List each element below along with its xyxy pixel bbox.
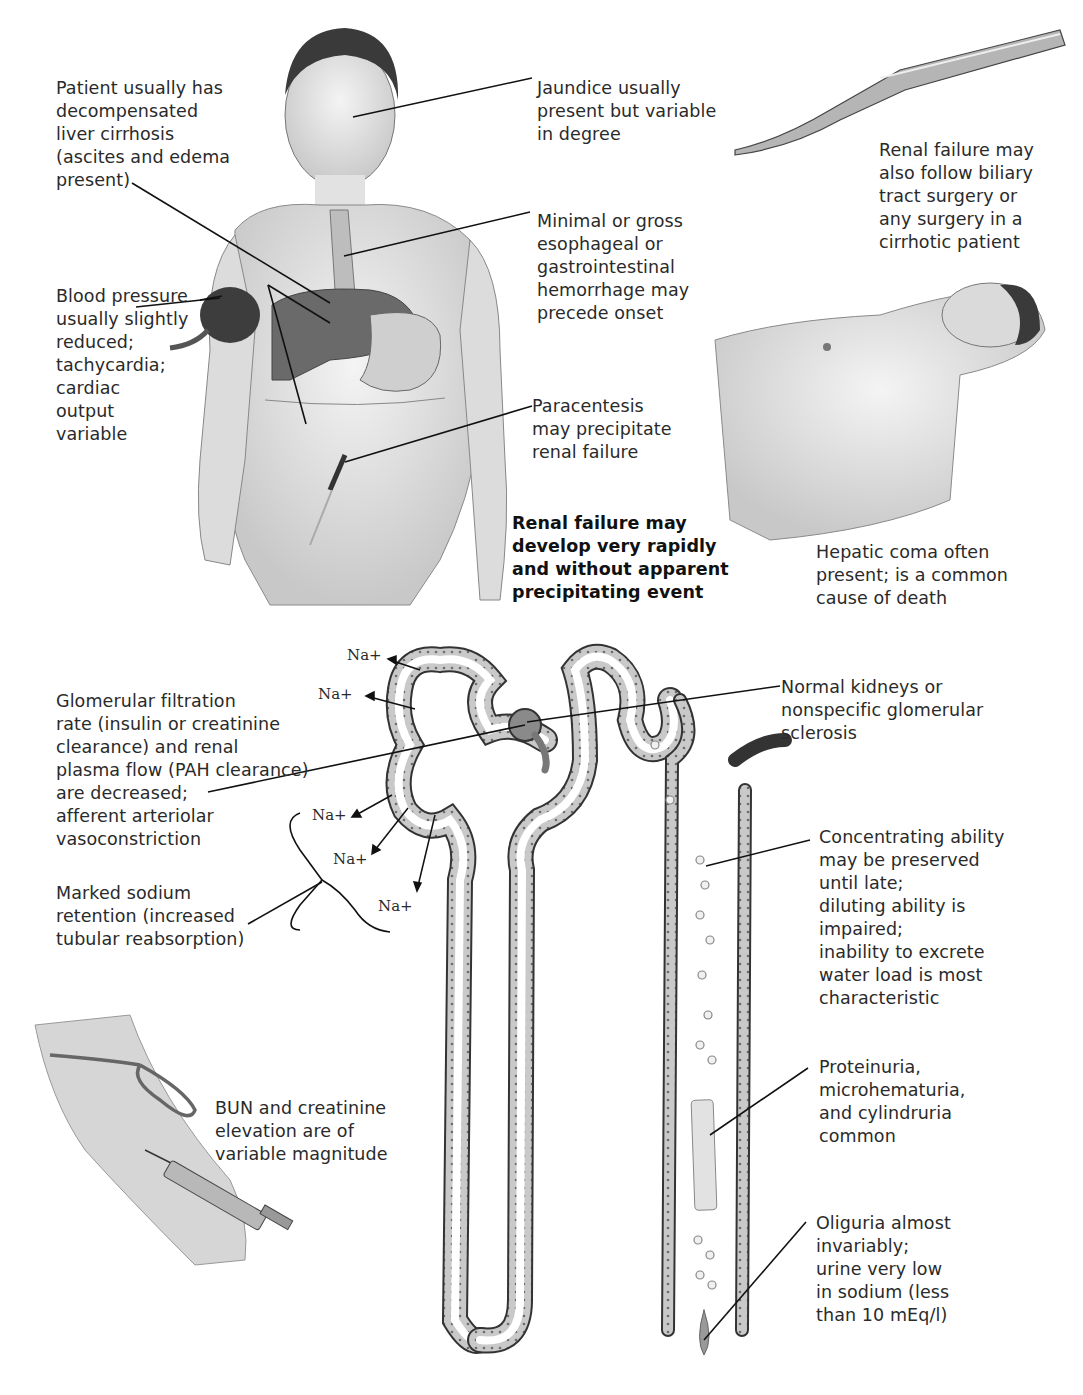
label-blood-pressure: Blood pressure usually slightly reduced;… bbox=[56, 285, 188, 446]
label-sodium-retention: Marked sodium retention (increased tubul… bbox=[56, 882, 244, 951]
label-proteinuria: Proteinuria, microhematuria, and cylindr… bbox=[819, 1056, 965, 1148]
patient-lying-illustration bbox=[715, 283, 1045, 540]
nephron-illustration bbox=[399, 657, 785, 1355]
sodium-marker: Na+ bbox=[318, 685, 353, 703]
label-bun: BUN and creatinine elevation are of vari… bbox=[215, 1097, 388, 1166]
label-concentrating: Concentrating ability may be preserved u… bbox=[819, 826, 1005, 1010]
label-oliguria: Oliguria almost invariably; urine very l… bbox=[816, 1212, 951, 1327]
label-paracentesis: Paracentesis may precipitate renal failu… bbox=[532, 395, 672, 464]
scalpel-illustration bbox=[735, 30, 1065, 155]
label-rapid-onset: Renal failure may develop very rapidly a… bbox=[512, 512, 729, 604]
sodium-marker: Na+ bbox=[312, 806, 347, 824]
label-hemorrhage: Minimal or gross esophageal or gastroint… bbox=[537, 210, 689, 325]
label-gfr: Glomerular filtration rate (insulin or c… bbox=[56, 690, 309, 851]
sodium-marker: Na+ bbox=[378, 897, 413, 915]
sodium-marker: Na+ bbox=[333, 850, 368, 868]
label-cirrhosis: Patient usually has decompensated liver … bbox=[56, 77, 230, 192]
sodium-marker: Na+ bbox=[347, 646, 382, 664]
label-normal-kidneys: Normal kidneys or nonspecific glomerular… bbox=[781, 676, 983, 745]
label-hepatic-coma: Hepatic coma often present; is a common … bbox=[816, 541, 1008, 610]
label-jaundice: Jaundice usually present but variable in… bbox=[537, 77, 716, 146]
label-surgery: Renal failure may also follow biliary tr… bbox=[879, 139, 1034, 254]
